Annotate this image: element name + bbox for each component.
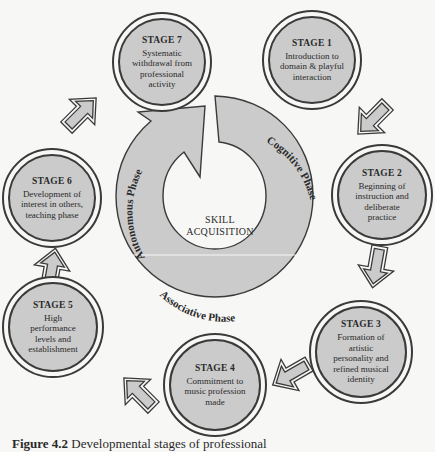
stage-2-title: STAGE 2 xyxy=(362,168,402,178)
stage-4-circle: STAGE 4 Commitment to music profession m… xyxy=(163,333,267,437)
stage-1-description: Introduction to domain & playful interac… xyxy=(274,51,350,83)
center-label-line2: ACQUISITION xyxy=(185,226,255,238)
stage-6-circle: STAGE 6 Development of interest in other… xyxy=(2,148,102,248)
stage-3-description: Formation of artistic personality and re… xyxy=(327,332,395,385)
stage-3-title: STAGE 3 xyxy=(341,319,381,329)
stage-7-circle: STAGE 7 Systematic withdrawal from profe… xyxy=(112,12,212,112)
stage-5-circle: STAGE 5 High performance levels and esta… xyxy=(2,276,104,378)
stage-7-title: STAGE 7 xyxy=(142,35,182,45)
arrow-stage2-to-stage3 xyxy=(355,243,398,291)
stage-5-title: STAGE 5 xyxy=(33,300,73,310)
stage-2-circle: STAGE 2 Beginning of instruction and del… xyxy=(331,144,433,246)
arrow-stage4-to-stage5 xyxy=(111,365,166,420)
stage-7-description: Systematic withdrawal from professional … xyxy=(126,48,198,90)
stage-6-description: Development of interest in others, teach… xyxy=(15,189,89,221)
stage-4-title: STAGE 4 xyxy=(195,363,235,373)
stage-5-description: High performance levels and establishmen… xyxy=(22,313,84,355)
stage-1-circle: STAGE 1 Introduction to domain & playful… xyxy=(262,10,362,110)
center-label-skill-acquisition: SKILL ACQUISITION xyxy=(185,214,255,238)
phase-ring xyxy=(116,96,313,297)
arrow-stage1-to-stage2 xyxy=(345,92,400,147)
figure-caption-text: Developmental stages of professional xyxy=(71,436,266,451)
stage-3-circle: STAGE 3 Formation of artistic personalit… xyxy=(309,300,413,404)
figure-caption-label: Figure 4.2 xyxy=(12,436,68,451)
stage-2-description: Beginning of instruction and deliberate … xyxy=(349,181,415,223)
figure-caption: Figure 4.2 Developmental stages of profe… xyxy=(12,436,267,452)
stage-4-description: Commitment to music profession made xyxy=(178,376,251,408)
stage-6-title: STAGE 6 xyxy=(32,176,72,186)
arrow-stage6-to-stage7 xyxy=(54,85,109,140)
center-label-line1: SKILL xyxy=(185,214,255,226)
stage-1-title: STAGE 1 xyxy=(292,38,332,48)
